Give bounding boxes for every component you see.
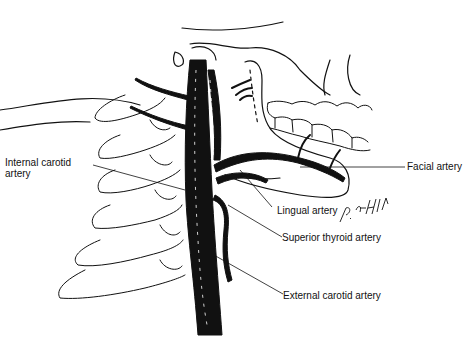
label-facial-artery: Facial artery xyxy=(407,161,462,172)
leader-internal-carotid xyxy=(93,165,185,190)
label-lingual-artery: Lingual artery xyxy=(277,205,338,216)
anatomical-illustration: Internal carotid artery Facial artery Li… xyxy=(0,0,473,337)
label-superior-thyroid-artery: Superior thyroid artery xyxy=(282,232,381,243)
lingual-artery-vessel xyxy=(216,173,268,184)
label-external-carotid-artery: External carotid artery xyxy=(283,290,381,301)
label-internal-carotid-artery: Internal carotid artery xyxy=(5,157,95,179)
cervical-vertebrae xyxy=(59,95,185,298)
label-internal-carotid-line2: artery xyxy=(5,168,31,179)
artist-signature xyxy=(340,198,388,222)
teeth xyxy=(267,101,372,151)
leader-superior-thyroid xyxy=(228,205,282,237)
label-internal-carotid-line1: Internal carotid xyxy=(5,157,71,168)
